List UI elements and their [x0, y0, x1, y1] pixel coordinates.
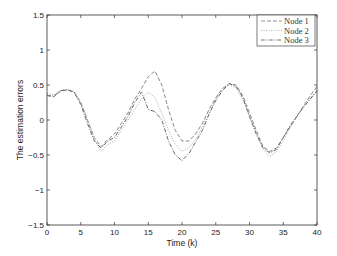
y-axis-label: The estimation errors — [15, 80, 25, 160]
y-tick-label: 1.5 — [33, 11, 45, 20]
x-tick-label: 10 — [110, 228, 119, 237]
x-tick-label: 15 — [144, 228, 153, 237]
y-tick-label: −1 — [35, 186, 45, 195]
y-tick-label: 0 — [40, 116, 45, 125]
x-tick-label: 20 — [178, 228, 187, 237]
line-chart: 0510152025303540 1.510.50−0.5−1−1.5 Time… — [0, 0, 337, 256]
legend-label-node2: Node 2 — [284, 26, 309, 36]
x-axis-ticks: 0510152025303540 — [45, 15, 322, 237]
plot-lines — [47, 71, 317, 161]
x-tick-label: 0 — [45, 228, 50, 237]
x-axis-label: Time (k) — [167, 238, 198, 248]
x-tick-label: 30 — [245, 228, 254, 237]
series-line-node1 — [47, 71, 317, 152]
y-tick-label: 0.5 — [33, 81, 45, 90]
x-tick-label: 40 — [313, 228, 322, 237]
series-line-node3 — [47, 84, 317, 161]
legend-label-node1: Node 1 — [284, 16, 309, 26]
y-tick-label: −0.5 — [28, 151, 44, 160]
x-tick-label: 35 — [279, 228, 288, 237]
legend-label-node3: Node 3 — [284, 35, 309, 45]
x-tick-label: 25 — [211, 228, 220, 237]
x-tick-label: 5 — [79, 228, 84, 237]
y-tick-label: −1.5 — [28, 221, 44, 230]
y-tick-label: 1 — [40, 46, 45, 55]
legend: Node 1 Node 2 Node 3 — [257, 15, 315, 46]
